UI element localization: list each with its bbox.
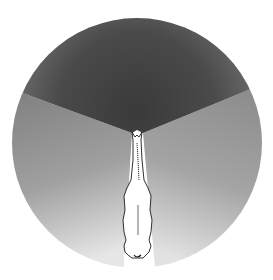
horse-visual-field-diagram bbox=[0, 0, 273, 280]
